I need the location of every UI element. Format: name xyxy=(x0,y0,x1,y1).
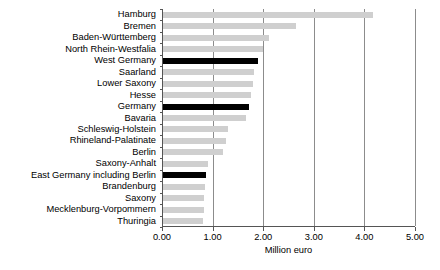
bar xyxy=(163,23,296,29)
category-label: Mecklenburg-Vorpommern xyxy=(46,204,156,215)
bar xyxy=(163,218,203,224)
bar xyxy=(163,207,204,213)
x-axis-tick-label: 3.00 xyxy=(292,232,336,243)
category-tick xyxy=(160,66,163,67)
bar xyxy=(163,184,205,190)
category-label: Saxony xyxy=(125,193,156,204)
bar xyxy=(163,12,373,18)
category-tick xyxy=(160,135,163,136)
category-label: Saxony-Anhalt xyxy=(96,158,156,169)
category-tick xyxy=(160,78,163,79)
bar xyxy=(163,69,254,75)
category-label: Rhineland-Palatinate xyxy=(70,135,156,146)
category-tick xyxy=(160,32,163,33)
x-axis-tick xyxy=(263,227,264,231)
category-label: Thuringia xyxy=(117,216,156,227)
category-label: Schleswig-Holstein xyxy=(77,124,156,135)
gridline-4.00 xyxy=(364,9,365,226)
category-tick xyxy=(160,112,163,113)
category-label: Brandenburg xyxy=(102,181,156,192)
category-tick xyxy=(160,124,163,125)
x-axis-title: Million euro xyxy=(162,245,415,256)
category-label: Saarland xyxy=(119,67,156,78)
category-label: Baden-Württemberg xyxy=(72,32,156,43)
category-label: East Germany including Berlin xyxy=(31,170,156,181)
x-axis-tick xyxy=(364,227,365,231)
gridline-5.00 xyxy=(415,9,416,226)
x-axis-tick xyxy=(162,227,163,231)
category-label: Hesse xyxy=(130,90,156,101)
x-axis-tick-label: 0.00 xyxy=(140,232,184,243)
x-axis-tick xyxy=(314,227,315,231)
category-label: Berlin xyxy=(132,147,156,158)
gridline-3.00 xyxy=(314,9,315,226)
category-tick xyxy=(160,193,163,194)
category-tick xyxy=(160,101,163,102)
bar xyxy=(163,126,228,132)
bar xyxy=(163,35,269,41)
bar xyxy=(163,92,251,98)
bar xyxy=(163,161,208,167)
x-axis-tick-label: 4.00 xyxy=(342,232,386,243)
category-label: Bavaria xyxy=(124,113,156,124)
bar xyxy=(163,115,246,121)
category-tick xyxy=(160,9,163,10)
category-label: Germany xyxy=(118,101,156,112)
x-axis-tick-label: 2.00 xyxy=(241,232,285,243)
category-tick xyxy=(160,147,163,148)
category-label: Bremen xyxy=(123,21,156,32)
category-tick xyxy=(160,43,163,44)
category-label: Lower Saxony xyxy=(97,78,156,89)
category-tick xyxy=(160,170,163,171)
category-tick xyxy=(160,20,163,21)
category-label: West Germany xyxy=(94,55,156,66)
bar xyxy=(163,46,263,52)
category-tick xyxy=(160,216,163,217)
category-axis-labels: HamburgBremenBaden-WürttembergNorth Rhei… xyxy=(0,9,159,227)
bar xyxy=(163,58,258,64)
category-tick xyxy=(160,181,163,182)
x-axis-tick xyxy=(415,227,416,231)
bar xyxy=(163,195,204,201)
bar xyxy=(163,172,206,178)
plot-area xyxy=(162,9,415,227)
category-tick xyxy=(160,89,163,90)
bar-chart: HamburgBremenBaden-WürttembergNorth Rhei… xyxy=(0,0,440,270)
x-axis-tick-label: 1.00 xyxy=(191,232,235,243)
category-tick xyxy=(160,204,163,205)
bar xyxy=(163,138,226,144)
bar xyxy=(163,104,249,110)
bar xyxy=(163,81,253,87)
category-tick xyxy=(160,55,163,56)
category-label: North Rhein-Westfalia xyxy=(65,44,156,55)
bar xyxy=(163,149,223,155)
category-label: Hamburg xyxy=(118,9,156,20)
category-tick xyxy=(160,158,163,159)
x-axis-tick xyxy=(213,227,214,231)
x-axis-tick-label: 5.00 xyxy=(393,232,437,243)
gridline-2.00 xyxy=(263,9,264,226)
